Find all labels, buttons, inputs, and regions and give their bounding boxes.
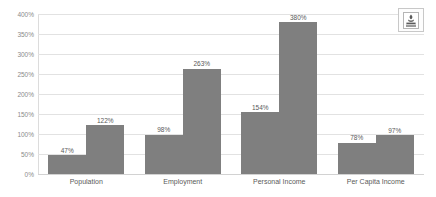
- x-axis-category-label: Per Capita Income: [347, 178, 405, 185]
- bar-value-label: 97%: [388, 127, 401, 134]
- y-axis-tick-label: 0%: [0, 171, 34, 178]
- x-axis-category-label: Population: [70, 178, 103, 185]
- emblem-icon: [403, 12, 419, 29]
- y-axis-tick-label: 100%: [0, 131, 34, 138]
- bar: [338, 143, 376, 174]
- gridline: [38, 174, 424, 175]
- plot-area: 47%122%98%263%154%380%78%97%: [38, 14, 424, 174]
- y-axis-tick-label: 200%: [0, 91, 34, 98]
- bar-group: 78%97%: [38, 14, 424, 174]
- x-axis-category-label: Employment: [163, 178, 202, 185]
- x-axis-category-label: Personal Income: [253, 178, 306, 185]
- y-axis-tick-label: 400%: [0, 11, 34, 18]
- bar-chart: 0%50%100%150%200%250%300%350%400% 47%122…: [0, 0, 436, 197]
- y-axis-tick-label: 300%: [0, 51, 34, 58]
- y-axis-tick-label: 350%: [0, 31, 34, 38]
- bar-value-label: 78%: [350, 134, 363, 141]
- agency-emblem-logo: [398, 8, 424, 32]
- bar: [376, 135, 414, 174]
- y-axis-tick-label: 250%: [0, 71, 34, 78]
- y-axis-tick-label: 50%: [0, 151, 34, 158]
- y-axis-tick-label: 150%: [0, 111, 34, 118]
